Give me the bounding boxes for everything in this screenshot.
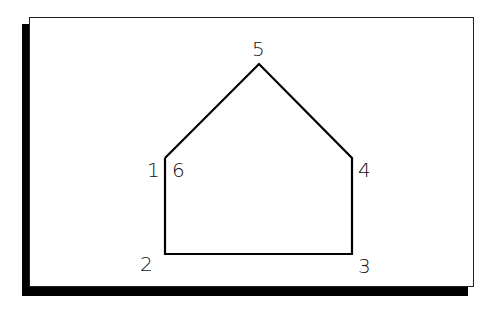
vertex-label-4: 4 [358,158,371,182]
vertex-label-3: 3 [358,254,371,278]
vertex-label-6: 6 [172,158,185,182]
vertex-label-1: 1 [147,158,160,182]
vertex-label-5: 5 [252,37,265,61]
house-polygon [165,64,352,254]
vertex-label-2: 2 [140,252,153,276]
house-polygon-diagram: 1 6 5 4 2 3 [0,0,498,311]
